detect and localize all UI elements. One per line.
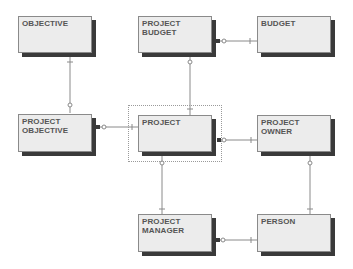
entity-project[interactable]: PROJECT [138, 115, 212, 152]
entity-budget[interactable]: BUDGET [257, 16, 331, 53]
entity-project-budget[interactable]: PROJECT BUDGET [138, 16, 212, 53]
entity-project-owner[interactable]: PROJECT OWNER [257, 115, 331, 152]
entity-person[interactable]: PERSON [257, 214, 331, 252]
entity-label: PROJECT MANAGER [142, 217, 184, 235]
entity-project-manager[interactable]: PROJECT MANAGER [138, 214, 212, 252]
entity-label: BUDGET [261, 19, 295, 28]
entity-project-objective[interactable]: PROJECT OBJECTIVE [18, 114, 92, 152]
entity-objective[interactable]: OBJECTIVE [18, 16, 92, 53]
entity-label: PROJECT OBJECTIVE [22, 117, 68, 135]
entity-label: PROJECT OWNER [261, 118, 300, 136]
entity-label: PROJECT BUDGET [142, 19, 181, 37]
entity-label: OBJECTIVE [22, 19, 68, 28]
entity-label: PERSON [261, 217, 295, 226]
entity-label: PROJECT [142, 118, 181, 127]
